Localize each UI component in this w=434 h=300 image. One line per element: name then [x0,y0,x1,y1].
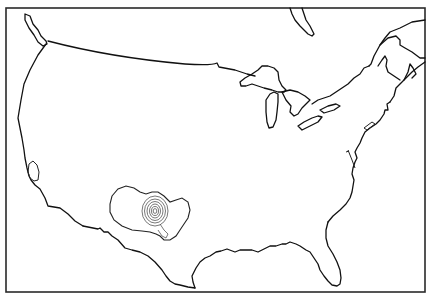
gulf-coast [192,222,341,288]
lake-superior [240,66,286,92]
gaspe-peninsula [380,36,425,58]
contour-level-1 [142,196,168,226]
contour-level-2 [145,199,166,223]
st-lawrence-valley [312,66,369,104]
hudson-bay-coast [290,8,314,36]
channel-islands-loop [28,161,39,181]
contour-level-5 [152,207,159,216]
new-england-coast [390,62,425,102]
contour-level-6 [153,209,157,214]
map-canvas [0,0,434,300]
st-lawrence-north [369,20,425,66]
southern-border [83,226,195,288]
contour-field [110,186,190,240]
lake-erie [298,116,322,130]
lake-michigan [266,92,278,128]
chesapeake-bay [346,150,355,168]
vancouver-island [25,14,47,46]
lake-huron [282,90,310,116]
northern-border-line [48,41,255,76]
map-frame [6,8,425,292]
east-coast [328,102,390,222]
lake-ontario [320,104,340,113]
st-lawrence-south [378,56,400,80]
west-coast [18,44,83,226]
nova-scotia [404,64,416,80]
